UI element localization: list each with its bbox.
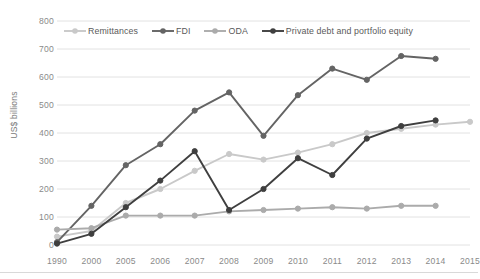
x-axis-tick: 2007 — [185, 256, 205, 266]
x-axis-tick: 2014 — [426, 256, 446, 266]
x-axis-tick: 1990 — [47, 256, 67, 266]
x-axis-tick: 2015 — [460, 256, 480, 266]
x-axis-tick: 2010 — [288, 256, 308, 266]
x-axis-tick: 2008 — [219, 256, 239, 266]
x-axis-tick: 2011 — [323, 256, 342, 266]
legend-swatch-icon — [262, 26, 284, 36]
legend-label: FDI — [176, 26, 190, 36]
x-axis-tick: 2005 — [116, 256, 136, 266]
x-axis-tick: 2012 — [357, 256, 377, 266]
legend-label: Private debt and portfolio equity — [286, 26, 413, 36]
x-axis-tick: 2009 — [254, 256, 274, 266]
chart-legend: RemittancesFDIODAPrivate debt and portfo… — [64, 26, 413, 36]
legend-item[interactable]: Private debt and portfolio equity — [262, 26, 413, 36]
bottom-divider — [0, 272, 478, 273]
legend-item[interactable]: ODA — [204, 26, 247, 36]
legend-swatch-icon — [64, 26, 86, 36]
legend-item[interactable]: Remittances — [64, 26, 138, 36]
legend-swatch-icon — [152, 26, 174, 36]
x-axis-tick: 2000 — [81, 256, 101, 266]
legend-swatch-icon — [204, 26, 226, 36]
legend-label: Remittances — [88, 26, 138, 36]
legend-item[interactable]: FDI — [152, 26, 190, 36]
x-axis-tick: 2013 — [391, 256, 411, 266]
x-axis-tick: 2006 — [150, 256, 170, 266]
legend-label: ODA — [228, 26, 247, 36]
